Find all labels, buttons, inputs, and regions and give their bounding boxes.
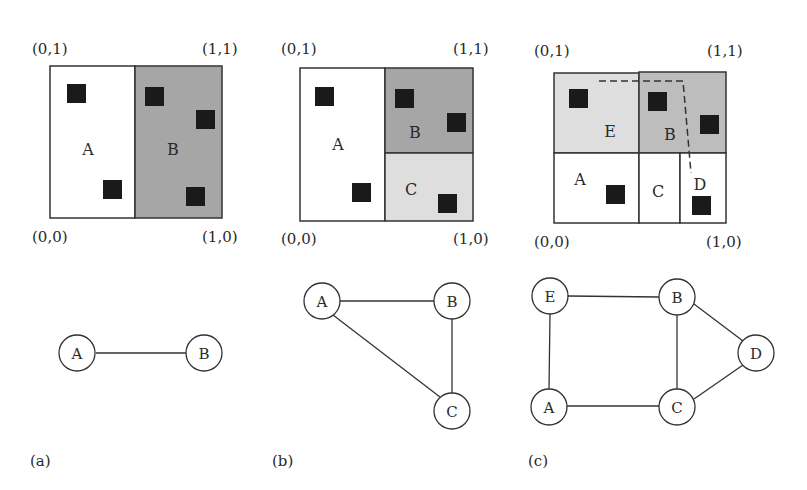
object-square <box>692 196 711 215</box>
object-square <box>395 89 414 108</box>
graph-node-label: D <box>750 345 762 363</box>
object-square <box>186 187 205 206</box>
graph-edge <box>333 315 440 397</box>
region-label-c: C <box>652 182 664 201</box>
graph-node-label: C <box>446 403 457 421</box>
corner-label-br: (1,0) <box>706 233 742 251</box>
object-square <box>315 87 334 106</box>
corner-label-bl: (0,0) <box>32 228 68 246</box>
panel-b-map: A B C (0,1) (1,1) (0,0) (1,0) <box>281 40 489 248</box>
graph-node-label: A <box>316 293 328 311</box>
graph-node-label: B <box>446 293 457 311</box>
corner-label-tl: (0,1) <box>534 42 570 60</box>
object-square <box>352 183 371 202</box>
graph-edge <box>549 314 550 389</box>
graph-node-label: B <box>198 345 209 363</box>
region-c <box>385 153 473 221</box>
graph-node-label: A <box>543 399 555 417</box>
object-square <box>438 194 457 213</box>
corner-label-bl: (0,0) <box>534 233 570 251</box>
corner-label-tr: (1,1) <box>453 40 489 58</box>
region-label-b: B <box>664 125 676 144</box>
object-square <box>67 84 86 103</box>
corner-label-tl: (0,1) <box>281 40 317 58</box>
spatial-partition-diagram: A B (0,1) (1,1) (0,0) (1,0) A B (a) A B … <box>0 0 807 490</box>
panel-caption-b: (b) <box>272 452 293 470</box>
region-e <box>554 73 639 153</box>
corner-label-tr: (1,1) <box>707 42 743 60</box>
object-square <box>648 92 667 111</box>
graph-edge <box>568 296 659 297</box>
graph-edge <box>694 365 743 399</box>
corner-label-tl: (0,1) <box>32 40 68 58</box>
region-label-a: A <box>573 170 586 189</box>
panel-a-map: A B (0,1) (1,1) (0,0) (1,0) <box>32 40 238 246</box>
region-label-c: C <box>405 180 417 199</box>
region-label-a: A <box>81 140 94 159</box>
panel-caption-a: (a) <box>30 452 51 470</box>
corner-label-br: (1,0) <box>202 228 238 246</box>
corner-label-br: (1,0) <box>453 230 489 248</box>
graph-node-label: B <box>671 289 682 307</box>
graph-node-label: A <box>71 345 83 363</box>
panel-caption-c: (c) <box>528 452 548 470</box>
panel-c-graph: E B D A C (c) <box>528 278 774 470</box>
object-square <box>700 115 719 134</box>
region-label-a: A <box>331 135 344 154</box>
region-a <box>554 153 639 223</box>
object-square <box>145 87 164 106</box>
graph-node-label: E <box>545 288 556 306</box>
panel-c-map: E B A C D (0,1) (1,1) (0,0) (1,0) <box>534 42 743 251</box>
region-label-b: B <box>167 140 179 159</box>
object-square <box>196 110 215 129</box>
region-b <box>639 72 726 153</box>
panel-a-graph: A B (a) <box>30 335 222 470</box>
graph-edge <box>694 304 743 341</box>
object-square <box>606 185 625 204</box>
object-square <box>569 89 588 108</box>
region-b <box>385 68 473 153</box>
corner-label-bl: (0,0) <box>281 230 317 248</box>
object-square <box>103 180 122 199</box>
region-label-e: E <box>604 122 616 141</box>
region-label-d: D <box>694 175 707 194</box>
graph-node-label: C <box>671 399 682 417</box>
object-square <box>447 113 466 132</box>
corner-label-tr: (1,1) <box>202 40 238 58</box>
region-label-b: B <box>409 123 421 142</box>
panel-b-graph: A B C (b) <box>272 283 470 470</box>
